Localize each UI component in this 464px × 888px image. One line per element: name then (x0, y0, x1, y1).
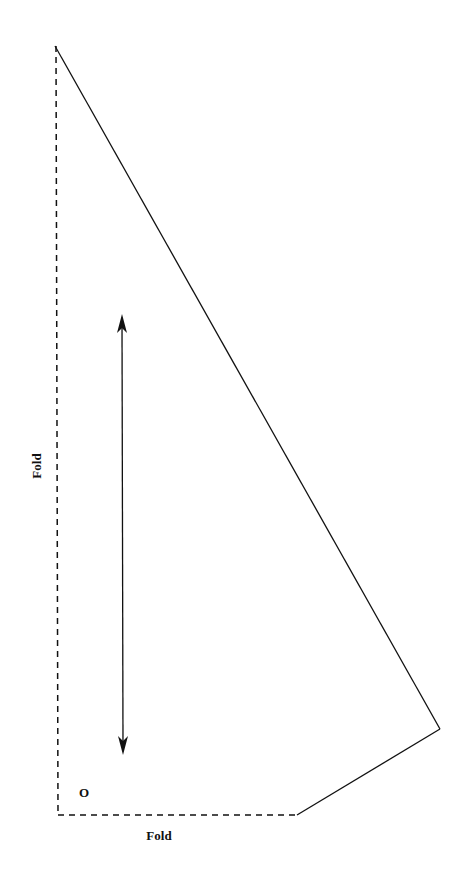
fold-label-bottom: Fold (146, 828, 172, 843)
diagonal-cut-line (55, 46, 440, 729)
fold-label-left: Fold (29, 453, 44, 479)
left-fold-line (56, 46, 58, 815)
pattern-diagram: Fold O Fold (0, 0, 464, 888)
corner-mark-label: O (79, 785, 89, 800)
grainline-shaft (122, 322, 123, 746)
lower-right-cut-line (297, 729, 440, 815)
grainline-arrow (117, 314, 128, 755)
